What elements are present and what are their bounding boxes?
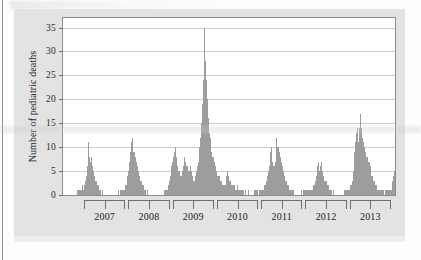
x-tick-mark bbox=[238, 200, 239, 209]
x-tick-mark bbox=[149, 200, 150, 209]
x-axis: 2007200820092010201120122013 bbox=[62, 200, 396, 212]
y-tick-label: 5 bbox=[51, 166, 56, 176]
y-axis-title-label: Number of pediatric deaths bbox=[28, 51, 39, 163]
gridline bbox=[63, 171, 395, 172]
figure-panel-shadow bbox=[14, 236, 405, 242]
scan-artifact-top bbox=[10, 1, 240, 9]
x-tick-label: 2013 bbox=[360, 211, 381, 222]
x-tick-mark bbox=[193, 200, 194, 209]
x-tick-mark bbox=[105, 200, 106, 209]
y-tick-label: 0 bbox=[51, 190, 56, 200]
plot-area: 05101520253035 bbox=[62, 17, 396, 196]
y-tick-mark bbox=[59, 75, 63, 76]
x-tick-label: 2008 bbox=[139, 211, 160, 222]
data-spike bbox=[102, 190, 103, 195]
y-axis-title: Number of pediatric deaths bbox=[26, 17, 40, 196]
x-tick-label: 2012 bbox=[316, 211, 337, 222]
data-spike bbox=[333, 190, 334, 195]
y-tick-mark bbox=[59, 171, 63, 172]
plot-inner bbox=[63, 18, 395, 195]
x-tick-mark bbox=[326, 200, 327, 209]
y-tick-mark bbox=[59, 28, 63, 29]
y-tick-label: 15 bbox=[46, 118, 56, 128]
data-spike bbox=[248, 190, 249, 195]
x-tick-label: 2009 bbox=[183, 211, 204, 222]
scanned-page: Number of pediatric deaths 0510152025303… bbox=[0, 0, 421, 260]
page-edge-rule bbox=[2, 0, 3, 260]
y-tick-mark bbox=[59, 195, 63, 196]
data-spike bbox=[147, 190, 148, 195]
x-tick-label: 2011 bbox=[272, 211, 292, 222]
y-tick-mark bbox=[59, 99, 63, 100]
gridline bbox=[63, 123, 395, 124]
x-tick-mark bbox=[370, 200, 371, 209]
x-tick-label: 2010 bbox=[227, 211, 248, 222]
data-spike bbox=[394, 171, 395, 195]
y-tick-label: 30 bbox=[46, 46, 56, 56]
y-tick-mark bbox=[59, 147, 63, 148]
y-tick-mark bbox=[59, 51, 63, 52]
data-spike bbox=[293, 190, 294, 195]
y-tick-label: 25 bbox=[46, 70, 56, 80]
gridline bbox=[63, 75, 395, 76]
x-tick-mark bbox=[282, 200, 283, 209]
x-tick-label: 2007 bbox=[94, 211, 115, 222]
y-tick-label: 35 bbox=[46, 23, 56, 33]
gridline bbox=[63, 28, 395, 29]
y-tick-mark bbox=[59, 123, 63, 124]
y-tick-label: 10 bbox=[46, 142, 56, 152]
gridline bbox=[63, 147, 395, 148]
gridline bbox=[63, 51, 395, 52]
data-spike bbox=[245, 190, 246, 195]
y-tick-label: 20 bbox=[46, 94, 56, 104]
gridline bbox=[63, 99, 395, 100]
